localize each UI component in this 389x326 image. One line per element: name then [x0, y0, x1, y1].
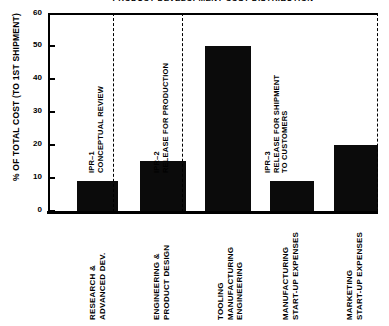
- bar-manufacturing-startup-expenses: [270, 181, 314, 211]
- annotation-ipr-3-line-3: TO CUSTOMERS: [281, 75, 290, 173]
- y-tick-20: [48, 144, 55, 146]
- y-tick-60: [48, 13, 55, 15]
- y-axis-title: % OF TOTAL COST (TO 1ST SHIPMENT): [11, 0, 21, 197]
- milestone-divider-ipr-3: [377, 13, 378, 212]
- annotation-ipr-1-line-2: CONCEPTUAL REVIEW: [97, 86, 106, 173]
- x-category-label-tooling-manufacturing-engineering-line-1: TOOLING: [216, 247, 226, 320]
- annotation-ipr-2: IPR–2 RELEASE FOR PRODUCTION: [153, 63, 170, 173]
- y-tick-30: [48, 111, 55, 113]
- x-axis-line: [47, 211, 378, 214]
- x-category-label-tooling-manufacturing-engineering-line-2: MANUFACTURING: [226, 247, 236, 320]
- y-tick-label-30: 30: [12, 106, 42, 115]
- chart-title: PRODUCT DEVELOPMENT COST DISTRIBUTION: [48, 0, 378, 3]
- x-category-label-manufacturing-startup-expenses-line-2: START-UP EXPENSES: [291, 232, 301, 320]
- annotation-ipr-2-line-2: RELEASE FOR PRODUCTION: [162, 63, 171, 173]
- x-category-label-research-advanced-dev-line-1: RESEARCH &: [88, 252, 98, 320]
- x-category-label-manufacturing-startup-expenses-line-1: MANUFACTURING: [281, 232, 291, 320]
- plot-area: 0 10 20 30 40 50 60 IPR–1 CONCEPTUAL REV…: [48, 13, 378, 211]
- chart-root: PRODUCT DEVELOPMENT COST DISTRIBUTION % …: [0, 0, 389, 326]
- y-tick-label-50: 50: [12, 40, 42, 49]
- annotation-ipr-1: IPR–1 CONCEPTUAL REVIEW: [88, 86, 105, 173]
- y-tick-10: [48, 177, 55, 179]
- x-category-label-marketing-startup-expenses-line-2: START-UP EXPENSES: [355, 232, 365, 320]
- bar-tooling-manufacturing-engineering: [205, 46, 251, 211]
- x-category-label-engineering-product-design: ENGINEERING & PRODUCT DESIGN: [152, 245, 171, 320]
- x-category-label-manufacturing-startup-expenses: MANUFACTURING START-UP EXPENSES: [281, 232, 300, 320]
- x-category-label-marketing-startup-expenses-line-1: MARKETING: [345, 232, 355, 320]
- milestone-divider-ipr-2: [182, 13, 183, 212]
- y-tick-label-60: 60: [12, 8, 42, 17]
- milestone-divider-ipr-1: [113, 13, 114, 212]
- annotation-ipr-3: IPR–3 RELEASE FOR SHIPMENT TO CUSTOMERS: [264, 75, 290, 173]
- x-category-label-engineering-product-design-line-2: PRODUCT DESIGN: [162, 245, 172, 320]
- y-tick-0: [48, 210, 55, 212]
- x-category-label-engineering-product-design-line-1: ENGINEERING &: [152, 245, 162, 320]
- y-tick-label-10: 10: [12, 172, 42, 181]
- x-category-label-tooling-manufacturing-engineering: TOOLING MANUFACTURING ENGINEERING: [216, 247, 245, 320]
- y-tick-label-0: 0: [12, 205, 42, 214]
- plot-top-border: [48, 13, 378, 15]
- bar-research-advanced-dev: [77, 181, 118, 211]
- y-tick-label-40: 40: [12, 73, 42, 82]
- y-tick-40: [48, 78, 55, 80]
- x-category-label-tooling-manufacturing-engineering-line-3: ENGINEERING: [235, 247, 245, 320]
- x-category-label-marketing-startup-expenses: MARKETING START-UP EXPENSES: [345, 232, 364, 320]
- y-tick-label-20: 20: [12, 139, 42, 148]
- y-tick-50: [48, 45, 55, 47]
- bar-marketing-startup-expenses: [334, 145, 378, 211]
- x-category-label-research-advanced-dev-line-2: ADVANCED DEV.: [98, 252, 108, 320]
- chart-title-strip: PRODUCT DEVELOPMENT COST DISTRIBUTION: [48, 0, 378, 7]
- x-category-label-research-advanced-dev: RESEARCH & ADVANCED DEV.: [88, 252, 107, 320]
